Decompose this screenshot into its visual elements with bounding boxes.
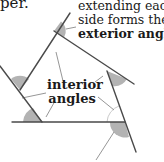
exterior-angles-label: extending each side forms the exterior a… bbox=[78, 0, 164, 41]
exterior-label-line3: exterior angles bbox=[78, 26, 164, 41]
interior-label-line2: angles bbox=[47, 92, 97, 106]
interior-angles-label: interior angles bbox=[47, 78, 97, 106]
exterior-label-line2: side forms the bbox=[78, 13, 164, 27]
exterior-angle-left bbox=[11, 76, 29, 90]
caption-fragment: per. bbox=[0, 0, 29, 12]
side-left-lower bbox=[0, 66, 42, 122]
interior-label-line1: interior bbox=[47, 78, 97, 92]
polygon-exterior-angles-diagram: per. extending each side forms the exter… bbox=[0, 0, 164, 162]
interior-angle-arcs bbox=[107, 106, 119, 122]
